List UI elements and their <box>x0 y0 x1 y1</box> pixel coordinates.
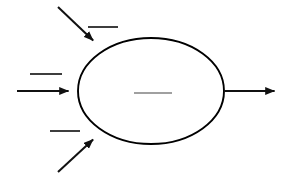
process-ellipse[interactable] <box>78 38 224 144</box>
input-arrow-top[interactable] <box>58 7 93 41</box>
diagram-svg <box>0 0 299 183</box>
diagram-canvas: Process Diagram <box>0 0 299 183</box>
input-arrow-bottom[interactable] <box>58 139 93 172</box>
